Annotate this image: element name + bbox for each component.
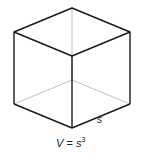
formula-exponent: 3	[81, 136, 85, 143]
side-length-label: s	[97, 114, 102, 125]
formula-equals: =	[63, 137, 76, 149]
cube-diagram	[0, 0, 143, 156]
volume-formula: V = s3	[56, 136, 85, 149]
